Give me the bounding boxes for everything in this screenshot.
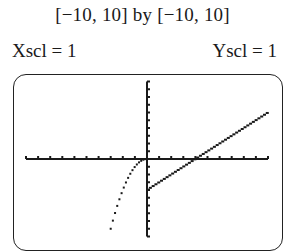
line-point [249,123,252,125]
line-point [182,165,185,167]
line-point [244,126,247,128]
line-point [218,142,221,144]
line-point [177,169,180,171]
line-point [199,155,202,157]
line-point [232,133,235,135]
curve-point [125,181,127,183]
line-point [149,187,152,189]
curve-point [114,212,116,214]
line-point [160,180,163,182]
line-point [260,116,263,118]
line-point [235,132,238,134]
line-point [252,121,255,123]
curve-point [145,158,147,160]
plotted-curves [110,112,269,230]
curve-point [134,166,136,168]
curve-point [127,177,129,179]
line-point [180,167,183,169]
curve-point [142,159,144,161]
line-point [266,112,269,114]
line-point [210,148,213,150]
line-point [185,164,188,166]
curve-point [116,205,118,207]
curve-point [123,187,125,189]
graph-plot [0,0,285,252]
curve-point [138,161,140,163]
line-point [146,189,149,191]
line-point [224,139,227,141]
curve-point [136,163,138,165]
line-point [213,146,216,148]
axes [26,82,268,237]
line-point [163,178,166,180]
line-point [202,153,205,155]
line-point [207,149,210,151]
line-point [152,185,155,187]
line-point [216,144,219,146]
line-point [168,174,171,176]
line-point [230,135,233,137]
line-point [246,124,249,126]
line-point [263,114,266,116]
curve-point [118,198,120,200]
curve-point [140,160,142,162]
curve-point [110,228,112,230]
line-point [191,160,194,162]
line-point [157,181,160,183]
line-point [154,183,157,185]
line-point [241,128,244,130]
line-point [166,176,169,178]
line-point [238,130,241,132]
line-point [171,173,174,175]
curve-point [131,169,133,171]
line-point [221,140,224,142]
curve-point [129,173,131,175]
curve-point [112,220,114,222]
line-point [257,117,260,119]
curve-point [121,192,123,194]
line-point [196,157,199,159]
line-point [174,171,177,173]
line-point [193,158,196,160]
line-point [205,151,208,153]
line-point [255,119,258,121]
line-point [188,162,191,164]
line-point [227,137,230,139]
